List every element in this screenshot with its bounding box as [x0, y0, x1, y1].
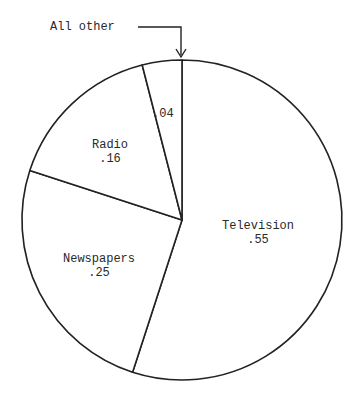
slice-label-all-other: .04	[152, 107, 174, 121]
radio-value: .16	[92, 152, 128, 166]
newspapers-value: .25	[63, 266, 135, 280]
slice-label-radio: Radio .16	[92, 138, 128, 166]
slice-label-television: Television .55	[222, 219, 294, 247]
newspapers-name: Newspapers	[63, 252, 135, 266]
television-name: Television	[222, 219, 294, 233]
slice-label-newspapers: Newspapers .25	[63, 252, 135, 280]
pie-chart	[0, 0, 363, 404]
callout-label-all-other: All other	[50, 20, 115, 34]
all-other-callout-arrow	[138, 27, 186, 57]
radio-name: Radio	[92, 138, 128, 152]
television-value: .55	[222, 233, 294, 247]
